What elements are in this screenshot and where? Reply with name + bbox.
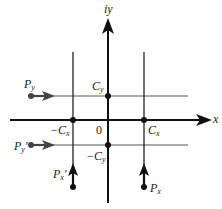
label-neg-cy: −Cy [86, 150, 106, 164]
label-py: Py [24, 78, 35, 92]
label-px: Px [150, 182, 161, 196]
x-axis-label: x [213, 113, 218, 125]
complex-plane-diagram [0, 0, 222, 209]
origin-label: 0 [96, 124, 102, 136]
label-py-prime: Py′ [14, 140, 28, 154]
dot-cy [105, 93, 111, 99]
dot-neg-cy [105, 142, 111, 148]
dot-neg-cx [70, 117, 76, 123]
label-cx: Cx [148, 124, 160, 138]
label-cy: Cy [92, 80, 104, 94]
y-axis-label: iy [104, 3, 113, 15]
label-neg-cx: −Cx [50, 124, 70, 138]
label-px-prime: Px′ [53, 168, 67, 182]
dot-cx [141, 117, 147, 123]
